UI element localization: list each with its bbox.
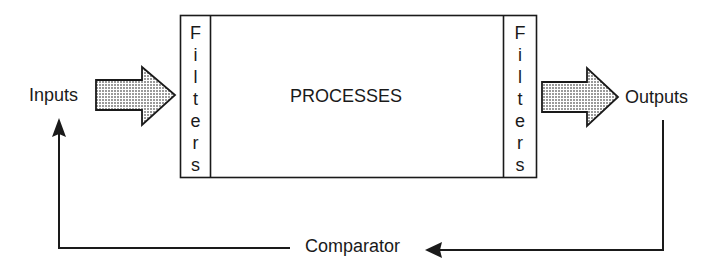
system-diagram <box>0 0 726 272</box>
input-block-arrow <box>96 67 175 125</box>
filter-letter: l <box>194 66 198 88</box>
processes-label: PROCESSES <box>290 87 402 105</box>
filter-letter: s <box>191 154 200 176</box>
input-filter-label: F i l t e r s <box>181 22 210 176</box>
filter-letter: F <box>515 22 526 44</box>
filter-letter: i <box>194 44 198 66</box>
filter-letter: F <box>190 22 201 44</box>
output-filter-label: F i l t e r s <box>504 22 536 176</box>
filter-letter: r <box>517 132 523 154</box>
filter-letter: e <box>515 110 525 132</box>
filter-letter: t <box>517 88 522 110</box>
filter-letter: l <box>518 66 522 88</box>
filter-letter: e <box>190 110 200 132</box>
output-block-arrow <box>542 68 618 126</box>
filter-letter: i <box>518 44 522 66</box>
inputs-label: Inputs <box>29 86 78 104</box>
outputs-label: Outputs <box>625 88 688 106</box>
filter-letter: s <box>516 154 525 176</box>
filter-letter: r <box>193 132 199 154</box>
comparator-label: Comparator <box>305 237 400 255</box>
comparator-arrowhead-icon <box>425 242 442 258</box>
filter-letter: t <box>193 88 198 110</box>
